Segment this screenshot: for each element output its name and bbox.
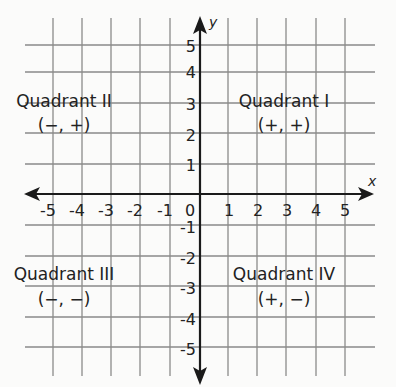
quadrant-signs: (+, +) [258,115,311,135]
y-tick: -1 [180,218,196,237]
x-tick: -3 [98,201,114,220]
quadrant-signs: (−, −) [38,289,91,309]
y-tick: 4 [186,63,196,82]
y-tick: -4 [180,310,196,329]
quadrant-signs: (−, +) [38,115,91,135]
x-tick: -4 [69,201,85,220]
x-tick: -5 [40,201,56,220]
y-tick: -5 [180,340,196,359]
y-tick: 2 [186,126,196,145]
x-tick: 5 [340,201,350,220]
x-tick: 3 [282,201,292,220]
y-tick: -3 [180,279,196,298]
x-axis-label: x [367,173,377,189]
quadrant-name: Quadrant I [239,91,330,111]
y-tick: -2 [180,249,196,268]
coordinate-plane: y x -5 -4 -3 -2 -1 0 1 2 3 4 5 5 4 3 2 1… [0,0,396,387]
y-tick: 5 [186,37,196,56]
quadrant-name: Quadrant II [16,91,112,111]
y-tick: 1 [186,156,196,175]
y-tick-labels: 5 4 3 2 1 -1 -2 -3 -4 -5 [180,37,196,359]
y-tick: 3 [186,95,196,114]
x-tick: 4 [311,201,321,220]
x-tick: -2 [127,201,143,220]
x-tick: -1 [157,201,173,220]
quadrant-labels: Quadrant II (−, +) Quadrant I (+, +) Qua… [14,91,336,309]
y-axis-label: y [208,14,218,30]
quadrant-signs: (+, −) [258,289,311,309]
x-tick: 1 [224,201,234,220]
quadrant-ii-label: Quadrant II (−, +) [16,91,112,135]
x-tick: 2 [253,201,263,220]
quadrant-name: Quadrant III [14,264,115,284]
quadrant-name: Quadrant IV [233,264,336,284]
